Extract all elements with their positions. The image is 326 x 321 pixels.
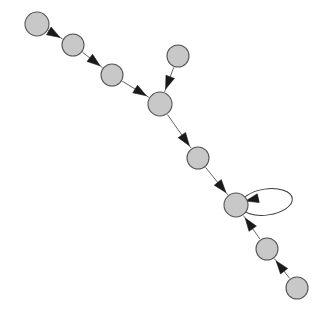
- nodes-layer: [25, 12, 308, 299]
- graph-node-n8[interactable]: [256, 238, 278, 260]
- arrowhead-n8-to-n7: [245, 218, 256, 231]
- graph-node-n6[interactable]: [187, 147, 209, 169]
- node-circle[interactable]: [167, 45, 189, 67]
- graph-node-n1[interactable]: [25, 12, 49, 36]
- graph-node-n2[interactable]: [62, 34, 84, 56]
- node-circle[interactable]: [148, 92, 172, 116]
- directed-graph-canvas: [0, 0, 326, 321]
- node-circle[interactable]: [224, 193, 248, 217]
- node-circle[interactable]: [187, 147, 209, 169]
- graph-node-n9[interactable]: [286, 277, 308, 299]
- graph-node-n7[interactable]: [224, 193, 248, 217]
- arrowheads-layer: [47, 27, 288, 274]
- graph-node-n3[interactable]: [101, 64, 123, 86]
- node-circle[interactable]: [62, 34, 84, 56]
- node-circle[interactable]: [256, 238, 278, 260]
- graph-node-n5[interactable]: [148, 92, 172, 116]
- arrowhead-n6-to-n7: [214, 180, 226, 193]
- node-circle[interactable]: [25, 12, 49, 36]
- edges-layer: [48, 31, 294, 279]
- graph-node-n4[interactable]: [167, 45, 189, 67]
- arrowhead-n5-to-n6: [178, 133, 189, 146]
- arrowhead-n4-to-n5: [166, 75, 175, 89]
- arrowhead-n3-to-n5: [133, 85, 146, 96]
- node-circle[interactable]: [101, 64, 123, 86]
- arrowhead-n2-to-n3: [87, 54, 100, 65]
- node-circle[interactable]: [286, 277, 308, 299]
- arrowhead-n9-to-n8: [276, 261, 287, 274]
